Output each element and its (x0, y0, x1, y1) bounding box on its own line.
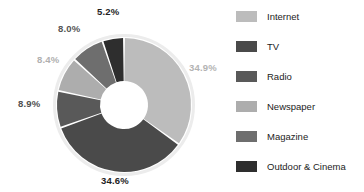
legend-swatch-icon (236, 41, 257, 52)
legend-swatch-icon (236, 161, 257, 172)
legend-swatch-icon (236, 71, 257, 82)
slice-value-label-magazine: 8.0% (58, 23, 80, 34)
legend-swatch-icon (236, 11, 257, 22)
donut-svg: Internet 34.9%TV 34.6%Radio 8.9%Newspape… (0, 0, 232, 192)
donut-chart-figure: Internet 34.9%TV 34.6%Radio 8.9%Newspape… (0, 0, 364, 192)
slice-value-label-radio: 8.9% (18, 98, 40, 109)
legend-item-label: Radio (267, 71, 292, 82)
legend-item-label: TV (267, 41, 279, 52)
legend-item-outdoor-cinema[interactable]: Outdoor & Cinema (236, 158, 346, 174)
legend-item-label: Newspaper (267, 101, 315, 112)
legend-item-radio[interactable]: Radio (236, 68, 292, 84)
legend-item-label: Magazine (267, 131, 308, 142)
legend-item-magazine[interactable]: Magazine (236, 128, 308, 144)
slice-value-label-outdoor-cinema: 5.2% (97, 6, 119, 17)
slice-value-label-newspaper: 8.4% (37, 54, 59, 65)
legend-swatch-icon (236, 131, 257, 142)
legend-item-label: Outdoor & Cinema (267, 161, 346, 172)
legend-swatch-icon (236, 101, 257, 112)
donut-slice-group: Internet 34.9%TV 34.6%Radio 8.9%Newspape… (55, 36, 194, 175)
legend-item-newspaper[interactable]: Newspaper (236, 98, 315, 114)
slice-value-label-internet: 34.9% (189, 62, 217, 73)
slice-value-label-tv: 34.6% (101, 175, 129, 186)
legend-item-tv[interactable]: TV (236, 38, 279, 54)
legend-item-internet[interactable]: Internet (236, 8, 299, 24)
donut-chart-plot: Internet 34.9%TV 34.6%Radio 8.9%Newspape… (0, 0, 232, 192)
chart-legend: InternetTVRadioNewspaperMagazineOutdoor … (236, 8, 364, 188)
legend-item-label: Internet (267, 11, 299, 22)
